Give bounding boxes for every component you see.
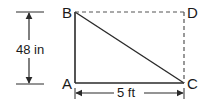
- point-label-d: D: [187, 5, 198, 20]
- height-dimension-label: 48 in: [14, 43, 46, 56]
- width-dimension-label: 5 ft: [115, 86, 137, 99]
- point-label-a: A: [62, 76, 72, 91]
- point-label-b: B: [62, 5, 72, 20]
- segment-bc: [75, 12, 184, 83]
- triangle-abc: [75, 12, 184, 83]
- point-label-c: C: [187, 76, 198, 91]
